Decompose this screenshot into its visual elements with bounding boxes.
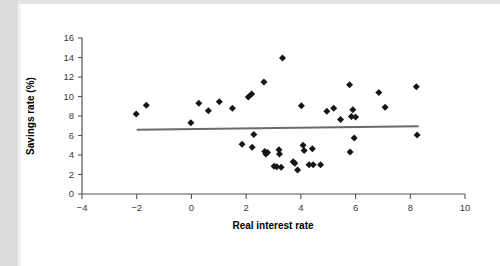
y-tick-label: 4 xyxy=(69,149,74,160)
data-point-marker xyxy=(239,141,246,148)
y-axis-group: 0246810121416 xyxy=(63,32,82,199)
y-axis-ticks: 0246810121416 xyxy=(63,32,82,199)
data-point-marker xyxy=(249,144,256,151)
data-point-marker xyxy=(279,54,286,61)
y-tick-label: 0 xyxy=(69,188,74,199)
x-tick-label: −2 xyxy=(131,202,142,213)
data-point-marker xyxy=(309,145,316,152)
y-tick-label: 12 xyxy=(63,71,74,82)
data-point-marker xyxy=(301,147,308,154)
data-point-marker xyxy=(413,83,420,90)
x-axis-ticks: −4−20246810 xyxy=(77,194,471,213)
data-point-marker xyxy=(349,106,356,113)
data-point-marker xyxy=(414,132,421,139)
trend-line-segment xyxy=(137,126,419,129)
x-axis-title: Real interest rate xyxy=(232,220,314,231)
data-point-marker xyxy=(276,151,283,158)
x-tick-label: 10 xyxy=(460,202,471,213)
x-tick-label: 0 xyxy=(189,202,194,213)
data-point-marker xyxy=(187,119,194,126)
x-tick-label: −4 xyxy=(77,202,88,213)
data-point-marker xyxy=(323,108,330,115)
data-point-marker xyxy=(260,78,267,85)
data-points xyxy=(133,54,421,173)
data-point-marker xyxy=(375,89,382,96)
data-point-marker xyxy=(278,164,285,171)
data-point-marker xyxy=(294,167,301,174)
data-point-marker xyxy=(205,107,212,114)
y-tick-label: 2 xyxy=(69,169,74,180)
data-point-marker xyxy=(216,98,223,105)
scatter-chart: 0246810121416 −4−20246810 Real interest … xyxy=(0,0,500,266)
y-tick-label: 6 xyxy=(69,130,74,141)
data-point-marker xyxy=(352,113,359,120)
data-point-marker xyxy=(195,100,202,107)
x-tick-label: 6 xyxy=(353,202,358,213)
data-point-marker xyxy=(337,116,344,123)
trend-line xyxy=(137,126,419,129)
data-point-marker xyxy=(347,149,354,156)
y-tick-label: 10 xyxy=(63,91,74,102)
y-axis-title: Savings rate (%) xyxy=(25,77,36,155)
x-axis-group: −4−20246810 xyxy=(77,194,471,213)
chart-canvas: 0246810121416 −4−20246810 Real interest … xyxy=(0,0,500,266)
y-tick-label: 8 xyxy=(69,110,74,121)
x-tick-label: 4 xyxy=(298,202,303,213)
x-tick-label: 8 xyxy=(408,202,413,213)
data-point-marker xyxy=(229,105,236,112)
data-point-marker xyxy=(298,102,305,109)
data-point-marker xyxy=(317,161,324,168)
data-point-marker xyxy=(310,161,317,168)
y-tick-label: 16 xyxy=(63,32,74,43)
figure-page: 0246810121416 −4−20246810 Real interest … xyxy=(0,0,500,266)
x-tick-label: 2 xyxy=(243,202,248,213)
data-point-marker xyxy=(133,111,140,118)
data-point-marker xyxy=(300,142,307,149)
data-point-marker xyxy=(351,134,358,141)
data-point-marker xyxy=(330,105,337,112)
y-tick-label: 14 xyxy=(63,52,74,63)
data-point-marker xyxy=(346,81,353,88)
data-point-marker xyxy=(382,104,389,111)
data-point-marker xyxy=(250,131,257,138)
data-point-marker xyxy=(143,102,150,109)
